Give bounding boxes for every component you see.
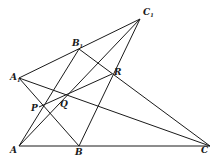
label-R: R (113, 67, 122, 77)
label-A1: A1 (9, 72, 20, 83)
line-C1-B (79, 19, 140, 146)
label-P: P (30, 103, 38, 113)
label-Q: Q (60, 99, 68, 109)
line-A1-C (19, 78, 210, 146)
label-C: C (201, 145, 209, 155)
line-P-R (39, 74, 112, 107)
label-C1: C1 (143, 7, 154, 18)
label-B1: B1 (71, 38, 83, 49)
label-A: A (9, 145, 17, 155)
line-B1-C (79, 49, 210, 146)
geometry-diagram: A B C A1 B1 C1 P Q R (0, 0, 220, 159)
label-B: B (74, 147, 83, 157)
